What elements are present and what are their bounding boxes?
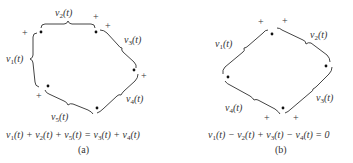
node xyxy=(133,69,136,72)
brace-v1 xyxy=(223,30,268,74)
label-v1: v1(t) xyxy=(6,53,24,66)
node xyxy=(96,107,99,110)
kvl-diagram: + + + + + v2(t) v1(t) v3(t) v4(t) v5(t) … xyxy=(0,0,353,163)
figure-a: + + + + + v2(t) v1(t) v3(t) v4(t) v5(t) … xyxy=(6,7,147,156)
plus-sign: + xyxy=(93,11,99,22)
plus-sign: + xyxy=(141,70,147,81)
brace-v4 xyxy=(97,74,138,113)
plus-sign: + xyxy=(36,90,42,101)
node xyxy=(325,65,328,68)
label-v5: v5(t) xyxy=(51,111,69,124)
label-v2: v2(t) xyxy=(310,29,328,42)
label-v1: v1(t) xyxy=(215,38,233,51)
plus-sign: + xyxy=(105,20,111,31)
brace-v1 xyxy=(30,33,39,87)
label-v2: v2(t) xyxy=(55,7,73,20)
plus-sign: + xyxy=(264,112,270,123)
plus-sign: + xyxy=(258,16,264,27)
plus-sign: + xyxy=(293,112,299,123)
equation-b: v1(t) − v2(t) + v3(t) − v4(t) = 0 xyxy=(208,129,330,142)
label-v4: v4(t) xyxy=(225,102,243,115)
node xyxy=(282,107,285,110)
node xyxy=(227,76,230,79)
node xyxy=(40,31,43,34)
brace-v3 xyxy=(285,67,332,113)
node xyxy=(95,31,98,34)
node xyxy=(47,85,50,88)
brace-v2 xyxy=(41,21,95,28)
plus-sign: + xyxy=(22,27,28,38)
caption-a: (a) xyxy=(78,144,89,156)
figure-b: + + + + v1(t) v2(t) v3(t) v4(t) v1(t) − … xyxy=(208,15,334,156)
label-v3: v3(t) xyxy=(124,34,142,47)
brace-v3 xyxy=(100,30,136,68)
equation-a: v1(t) + v2(t) + v5(t) = v3(t) + v4(t) xyxy=(6,129,141,142)
plus-sign: + xyxy=(282,15,288,26)
caption-b: (b) xyxy=(275,144,287,156)
label-v3: v3(t) xyxy=(316,92,334,105)
node xyxy=(271,33,274,36)
label-v4: v4(t) xyxy=(126,93,144,106)
